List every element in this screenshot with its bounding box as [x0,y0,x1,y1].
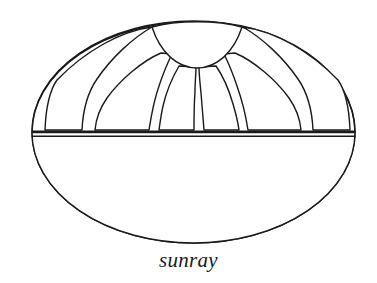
sunray-shape-group [32,21,355,243]
sunray-figure [0,0,377,283]
figure-caption-area: sunray [0,248,377,273]
figure-caption-label: sunray [159,248,218,272]
